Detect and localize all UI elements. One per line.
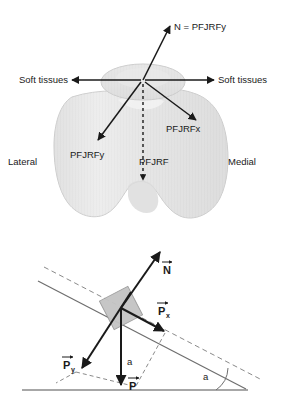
figure-svg: N = PFJRFy Soft tissues Soft tissues PFJ… (0, 0, 287, 403)
construction-py-extension (56, 372, 76, 383)
label-Px-group: P x (157, 303, 170, 319)
label-N-group: N (162, 262, 172, 276)
label-pfjrfx: PFJRFx (166, 123, 201, 134)
bottom-panel: N P x P y P (22, 252, 262, 392)
label-medial: Medial (228, 156, 256, 167)
label-P: P (129, 380, 136, 392)
construction-py-to-p (76, 372, 133, 386)
label-pfjrf: PFJRF (139, 156, 169, 167)
label-pfjrfy: PFJRFy (70, 149, 105, 160)
patella-shape (101, 64, 185, 100)
label-soft-tissues-right: Soft tissues (218, 74, 267, 85)
bottom-panel-labels: N P x P y P (62, 262, 209, 392)
label-Py-subscript: y (71, 366, 75, 374)
label-Py: P (63, 359, 70, 371)
label-soft-tissues-left: Soft tissues (19, 74, 68, 85)
label-normal-force: N = PFJRFy (174, 21, 226, 32)
construction-lines (56, 333, 165, 386)
construction-px-to-p (136, 333, 165, 386)
label-lateral: Lateral (8, 156, 37, 167)
label-N: N (163, 264, 171, 276)
label-Px-subscript: x (166, 312, 170, 319)
label-Px: P (158, 305, 165, 317)
label-angle-a: a (203, 371, 209, 382)
label-height-a: a (127, 356, 133, 367)
incline-surface-line (38, 281, 246, 389)
label-Py-group: P y (62, 357, 75, 374)
top-panel: N = PFJRFy Soft tissues Soft tissues PFJ… (8, 21, 267, 218)
figure-container: N = PFJRFy Soft tissues Soft tissues PFJ… (0, 0, 287, 403)
incline-parallel-dashed (44, 267, 262, 380)
